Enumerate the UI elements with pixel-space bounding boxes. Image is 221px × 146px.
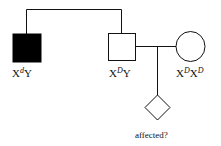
affected-male-square xyxy=(13,34,41,62)
unknown-sex-diamond xyxy=(145,95,170,120)
sibship-line xyxy=(27,10,122,35)
genotype-label-father: XDY xyxy=(109,68,131,79)
unaffected-male-square xyxy=(109,34,136,61)
genotype-label-mother: XDXD xyxy=(176,68,203,79)
child-label: affected? xyxy=(135,130,168,140)
genotype-label-affected-male: XdY xyxy=(12,68,32,79)
female-circle xyxy=(176,32,205,62)
